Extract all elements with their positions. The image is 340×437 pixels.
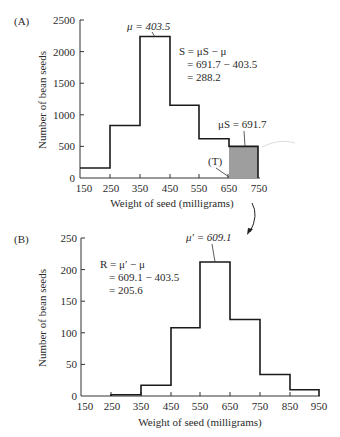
- svg-text:50: 50: [66, 358, 78, 370]
- svg-text:2000: 2000: [53, 46, 76, 58]
- svg-text:850: 850: [282, 400, 299, 412]
- panel-a-mus-pointer: [244, 131, 245, 146]
- panel-a-faint-curve: [262, 141, 295, 147]
- svg-text:350: 350: [133, 400, 150, 412]
- panel-a-label: (A): [14, 15, 30, 28]
- panel-a-t-label: (T): [208, 155, 222, 168]
- svg-text:150: 150: [76, 182, 93, 194]
- svg-text:1000: 1000: [53, 109, 76, 121]
- svg-text:450: 450: [163, 400, 180, 412]
- figure: (A) Number of bean seeds 0 500 1000 1500…: [0, 0, 340, 437]
- svg-text:200: 200: [61, 264, 78, 276]
- panel-a-x-tick-labels: 150 250 350 450 550 650 750: [76, 182, 268, 194]
- svg-text:250: 250: [61, 232, 78, 244]
- panel-a-mus-label: μS = 691.7: [218, 118, 267, 130]
- panel-a-s-formula-3: = 288.2: [187, 71, 221, 83]
- svg-text:550: 550: [192, 400, 209, 412]
- panel-a-y-axis-label: Number of bean seeds: [36, 51, 48, 149]
- selection-arrow: [247, 203, 255, 235]
- panel-b: (B) Number of bean seeds 0 50 100 150 20…: [14, 231, 328, 429]
- panel-a-x-ticks: [110, 174, 228, 178]
- svg-text:950: 950: [311, 400, 328, 412]
- svg-text:550: 550: [191, 182, 208, 194]
- svg-text:1500: 1500: [53, 77, 76, 89]
- panel-a-y-tick-labels: 0 500 1000 1500 2000 2500: [53, 14, 76, 184]
- panel-a-mu-label: μ = 403.5: [126, 20, 171, 32]
- panel-a-selected-region: [229, 146, 258, 178]
- panel-b-y-tick-labels: 0 50 100 150 200 250: [61, 232, 78, 402]
- panel-b-r-formula-2: = 609.1 − 403.5: [109, 271, 180, 283]
- panel-a-s-formula-1: S = μS − μ: [179, 45, 227, 57]
- svg-text:500: 500: [59, 140, 76, 152]
- svg-text:750: 750: [252, 400, 269, 412]
- arrow-head-icon: [247, 228, 253, 235]
- panel-b-mu-prime-label: μ′ = 609.1: [185, 231, 232, 243]
- panel-b-x-axis-label: Weight of seed (milligrams): [138, 416, 262, 429]
- panel-a-y-ticks: [80, 20, 84, 146]
- svg-text:150: 150: [61, 295, 78, 307]
- panel-a-s-formula-2: = 691.7 − 403.5: [187, 58, 258, 70]
- svg-text:350: 350: [132, 182, 149, 194]
- svg-text:2500: 2500: [53, 14, 76, 26]
- svg-text:100: 100: [61, 327, 78, 339]
- panel-b-r-formula-3: = 205.6: [109, 284, 143, 296]
- panel-b-x-tick-labels: 150 250 350 450 550 650 750 850 950: [77, 400, 328, 412]
- panel-a-x-axis-label: Weight of seed (milligrams): [110, 197, 234, 210]
- panel-b-y-axis-label: Number of bean seeds: [36, 269, 48, 367]
- svg-text:250: 250: [103, 182, 120, 194]
- panel-b-r-formula-1: R = μ′ − μ: [100, 258, 145, 270]
- svg-text:650: 650: [221, 182, 238, 194]
- panel-b-mu-prime-pointer: [212, 244, 215, 262]
- svg-text:250: 250: [104, 400, 121, 412]
- panel-a: (A) Number of bean seeds 0 500 1000 1500…: [14, 14, 295, 210]
- svg-text:650: 650: [222, 400, 239, 412]
- svg-text:0: 0: [70, 172, 76, 184]
- panel-a-t-pointer: [216, 168, 229, 177]
- panel-b-label: (B): [14, 233, 29, 246]
- svg-text:750: 750: [251, 182, 268, 194]
- svg-text:450: 450: [162, 182, 179, 194]
- svg-text:150: 150: [77, 400, 94, 412]
- panel-b-y-ticks: [81, 238, 85, 364]
